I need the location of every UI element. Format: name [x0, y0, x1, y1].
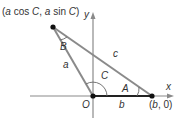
point-b-vertex	[149, 93, 154, 98]
angle-B-arc	[60, 37, 67, 40]
x-axis-label: x	[165, 81, 172, 92]
side-a	[53, 27, 93, 96]
angle-C-label: C	[101, 70, 109, 81]
x-axis-arrow-icon	[167, 94, 174, 99]
side-a-label: a	[63, 59, 69, 70]
top-vertex-label: (a cos C, a sin C)	[2, 6, 79, 17]
y-axis-label: y	[83, 9, 90, 20]
side-b-label: b	[119, 99, 125, 110]
b-vertex-label: (b, 0)	[149, 99, 172, 110]
side-c-label: c	[113, 48, 118, 59]
angle-B-label: B	[60, 41, 67, 52]
angle-A-label: A	[121, 83, 129, 94]
point-origin	[90, 93, 95, 98]
y-axis-arrow-icon	[91, 12, 96, 19]
triangle-diagram: (a cos C, a sin C) y x B c a C A O b (b,…	[0, 0, 181, 122]
origin-label: O	[82, 99, 90, 110]
angle-A-arc	[137, 87, 139, 96]
point-top-vertex	[50, 24, 55, 29]
